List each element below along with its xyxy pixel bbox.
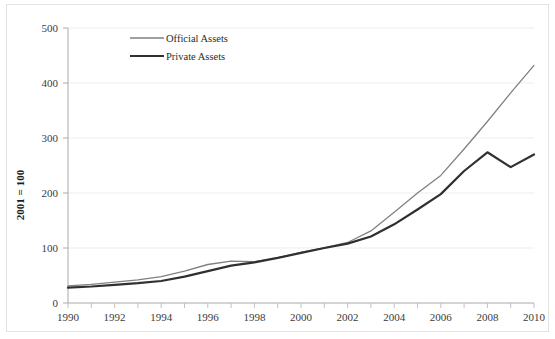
y-tick-label: 500 <box>42 22 59 34</box>
x-axis-tick-labels: 1990199219941996199820002002200420062008… <box>57 311 546 323</box>
y-tick-label: 400 <box>42 77 59 89</box>
y-axis-tick-labels: 0100200300400500 <box>42 22 59 309</box>
x-tick-label: 1992 <box>104 311 126 323</box>
x-tick-label: 2004 <box>383 311 406 323</box>
y-tick-label: 200 <box>42 187 59 199</box>
x-tick-label: 1994 <box>150 311 173 323</box>
y-tick-label: 100 <box>42 242 59 254</box>
line-chart-plot: 0100200300400500 19901992199419961998200… <box>0 0 555 339</box>
x-axis-tick-marks <box>68 303 534 308</box>
y-tick-label: 300 <box>42 132 59 144</box>
x-tick-label: 2000 <box>290 311 313 323</box>
y-tick-label: 0 <box>53 297 59 309</box>
y-axis-title: 2001 = 100 <box>14 169 26 220</box>
x-tick-label: 1996 <box>197 311 220 323</box>
x-tick-label: 2008 <box>476 311 499 323</box>
x-tick-label: 1998 <box>243 311 266 323</box>
legend-label-private-assets: Private Assets <box>166 51 225 62</box>
gridlines <box>68 28 534 248</box>
chart-container: 0100200300400500 19901992199419961998200… <box>0 0 555 339</box>
y-axis-tick-marks <box>63 28 68 303</box>
x-tick-label: 2010 <box>523 311 546 323</box>
chart-legend: Official AssetsPrivate Assets <box>130 33 228 62</box>
x-tick-label: 1990 <box>57 311 80 323</box>
x-tick-label: 2006 <box>430 311 453 323</box>
series-line-private-assets <box>68 152 534 287</box>
x-tick-label: 2002 <box>337 311 359 323</box>
y-axis-title-label: 2001 = 100 <box>14 169 26 220</box>
series-lines <box>68 65 534 287</box>
legend-label-official-assets: Official Assets <box>166 33 228 44</box>
